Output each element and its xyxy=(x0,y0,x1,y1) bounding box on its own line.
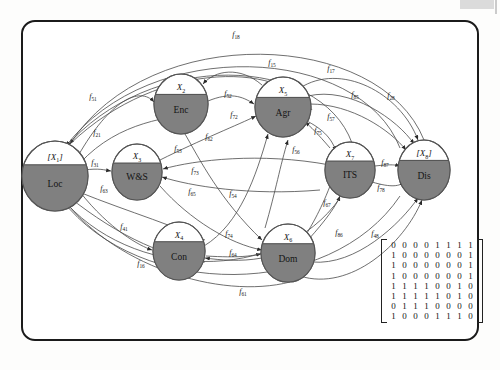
matrix-cell: 0 xyxy=(410,311,421,321)
matrix-cell: 1 xyxy=(454,281,465,291)
matrix-row: 11111010 xyxy=(388,291,476,301)
matrix-row: 10000001 xyxy=(388,250,476,260)
matrix-cell: 0 xyxy=(443,281,454,291)
matrix-row: 01110000 xyxy=(388,301,476,311)
matrix-cell: 0 xyxy=(443,260,454,270)
matrix-cell: 0 xyxy=(454,260,465,270)
node-name-enc: Enc xyxy=(174,105,189,115)
matrix-cell: 1 xyxy=(410,301,421,311)
node-its[interactable]: X7ITS xyxy=(325,142,375,198)
edge-label-f21: f21 xyxy=(93,128,101,138)
matrix-cell: 1 xyxy=(388,250,399,260)
node-loc[interactable]: [X1]Loc xyxy=(22,141,88,211)
edge-label-f61: f61 xyxy=(239,287,247,297)
matrix-cell: 0 xyxy=(410,240,421,250)
matrix-cell: 0 xyxy=(410,260,421,270)
edge-label-f51: f51 xyxy=(89,92,97,102)
node-name-ws: W&S xyxy=(126,172,148,182)
node-name-agr: Agr xyxy=(276,108,292,118)
matrix-cell: 1 xyxy=(421,281,432,291)
node-name-its: ITS xyxy=(343,170,357,180)
edge-f18 xyxy=(70,54,424,144)
edge-label-f15: f15 xyxy=(268,58,276,68)
matrix-cell: 0 xyxy=(399,250,410,260)
edge-label-f48: f48 xyxy=(371,229,379,239)
edge-label-f53: f53 xyxy=(174,144,182,154)
matrix-cell: 1 xyxy=(388,311,399,321)
matrix-bracket-right xyxy=(477,239,483,323)
matrix-cell: 0 xyxy=(465,281,476,291)
node-dom[interactable]: X6Dom xyxy=(261,224,315,282)
matrix-row: 10000001 xyxy=(388,260,476,270)
matrix-row: 10000001 xyxy=(388,271,476,281)
node-name-loc: Loc xyxy=(48,179,63,189)
matrix-cell: 1 xyxy=(421,291,432,301)
edge-f73 xyxy=(163,158,330,169)
matrix-cell: 0 xyxy=(465,301,476,311)
edge-label-f18: f18 xyxy=(232,30,240,40)
edge-f63-right xyxy=(162,177,320,192)
adjacency-matrix: 0000111110000001100000011000000111110010… xyxy=(381,239,483,323)
matrix-cell: 0 xyxy=(432,250,443,260)
node-con[interactable]: X4Con xyxy=(153,222,205,280)
matrix-cell: 1 xyxy=(465,250,476,260)
edge-label-f85: f85 xyxy=(351,90,359,100)
matrix-cell: 1 xyxy=(432,311,443,321)
matrix-cell: 1 xyxy=(388,291,399,301)
edge-label-f62: f62 xyxy=(205,132,213,142)
matrix-cell: 0 xyxy=(432,260,443,270)
matrix-cell: 0 xyxy=(421,250,432,260)
matrix-cell: 1 xyxy=(465,240,476,250)
edge-loc-con xyxy=(80,192,152,250)
matrix-cell: 0 xyxy=(443,301,454,311)
matrix-grid: 0000111110000001100000011000000111110010… xyxy=(387,239,477,323)
edge-label-f41: f41 xyxy=(120,222,128,232)
matrix-cell: 1 xyxy=(388,271,399,281)
matrix-cell: 1 xyxy=(443,240,454,250)
edge-label-f63: f63 xyxy=(100,184,108,194)
matrix-cell: 1 xyxy=(388,260,399,270)
matrix-row: 10001110 xyxy=(388,311,476,321)
node-name-con: Con xyxy=(171,252,187,262)
edge-label-f65: f65 xyxy=(188,187,196,197)
matrix-cell: 0 xyxy=(432,281,443,291)
matrix-cell: 1 xyxy=(410,281,421,291)
matrix-cell: 0 xyxy=(465,291,476,301)
edge-label-f87: f87 xyxy=(381,158,389,168)
matrix-cell: 0 xyxy=(410,250,421,260)
matrix-cell: 1 xyxy=(421,301,432,311)
edge-label-f74: f74 xyxy=(225,229,233,239)
matrix-cell: 1 xyxy=(388,281,399,291)
matrix-row: 00001111 xyxy=(388,240,476,250)
node-ws[interactable]: X3W&S xyxy=(112,144,162,200)
matrix-cell: 0 xyxy=(421,311,432,321)
matrix-cell: 1 xyxy=(399,301,410,311)
matrix-cell: 0 xyxy=(399,260,410,270)
node-name-dom: Dom xyxy=(279,254,299,264)
edge-label-f67: f67 xyxy=(323,198,331,208)
matrix-cell: 0 xyxy=(443,291,454,301)
matrix-cell: 1 xyxy=(432,291,443,301)
matrix-cell: 0 xyxy=(399,311,410,321)
matrix-cell: 0 xyxy=(421,260,432,270)
matrix-cell: 1 xyxy=(399,291,410,301)
edge-f15-agr-enc xyxy=(203,72,262,85)
matrix-cell: 0 xyxy=(421,271,432,281)
node-agr[interactable]: X5Agr xyxy=(255,77,311,137)
matrix-cell: 1 xyxy=(443,311,454,321)
matrix-cell: 0 xyxy=(443,271,454,281)
node-var-loc: [X1] xyxy=(47,152,63,163)
edge-f62 xyxy=(185,134,262,240)
node-dis[interactable]: [X8]Dis xyxy=(398,140,450,200)
matrix-cell: 0 xyxy=(399,240,410,250)
matrix-cell: 1 xyxy=(432,240,443,250)
matrix-cell: 1 xyxy=(454,311,465,321)
node-var-dis: [X8] xyxy=(416,148,432,159)
matrix-cell: 0 xyxy=(454,301,465,311)
matrix-cell: 0 xyxy=(421,240,432,250)
matrix-cell: 1 xyxy=(410,291,421,301)
matrix-cell: 0 xyxy=(399,271,410,281)
node-name-dis: Dis xyxy=(417,171,431,181)
node-enc[interactable]: X2Enc xyxy=(154,74,208,134)
matrix-cell: 1 xyxy=(465,260,476,270)
